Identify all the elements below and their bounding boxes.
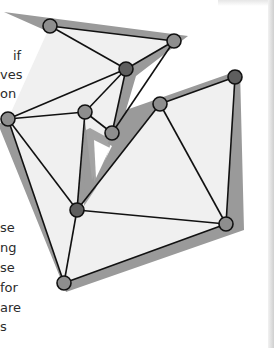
- vertex-node: [105, 126, 119, 140]
- vertex-node: [119, 62, 133, 76]
- vertex-node: [1, 112, 15, 126]
- vertex-node: [57, 276, 71, 290]
- vertex-node: [219, 217, 233, 231]
- triangulation-figure: [0, 0, 274, 348]
- vertex-node: [43, 19, 57, 33]
- vertex-node: [167, 34, 181, 48]
- vertex-node: [228, 70, 242, 84]
- vertex-node: [78, 105, 92, 119]
- vertex-node: [153, 97, 167, 111]
- vertex-node: [70, 203, 84, 217]
